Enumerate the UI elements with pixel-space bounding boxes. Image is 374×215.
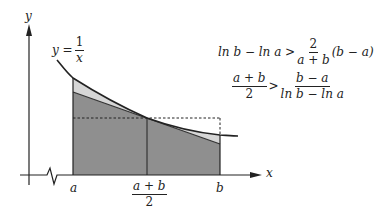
inequality-2-operator: > (269, 79, 279, 93)
x-axis-arrow-icon (250, 172, 262, 178)
midpoint-numerator: a + b (132, 180, 167, 195)
curve-label-denominator: x (76, 51, 83, 65)
curve-label-fraction: 1 x (75, 36, 85, 64)
tick-label-a: a (70, 182, 77, 194)
curve-label: y = 1 x (52, 36, 86, 64)
y-axis-label: y (25, 10, 32, 22)
inequality-2-left-numerator: a + b (232, 72, 267, 87)
inequality-1: ln b − ln a > 2 a + b (b − a) (218, 38, 374, 66)
y-axis-arrow-icon (26, 24, 32, 36)
inequality-1-denominator: a + b (297, 53, 330, 67)
inequality-2-right-numerator: b − a (295, 72, 330, 87)
tick-label-midpoint: a + b 2 (132, 180, 167, 208)
inequality-2-left-fraction: a + b 2 (232, 72, 267, 100)
inequality-1-numerator: 2 (309, 38, 319, 53)
curve-label-numerator: 1 (75, 36, 85, 51)
inequality-2-right-denominator: ln b − ln a (281, 87, 344, 101)
midpoint-denominator: 2 (145, 195, 153, 209)
tick-label-b: b (216, 182, 224, 194)
inequality-2: a + b 2 > b − a ln b − ln a (230, 72, 346, 100)
x-axis-label: x (266, 167, 273, 179)
inequality-2-right-fraction: b − a ln b − ln a (281, 72, 344, 100)
inequality-1-lhs: ln b − ln a > (218, 45, 295, 59)
inequality-1-fraction: 2 a + b (297, 38, 330, 66)
inequality-1-rhs: (b − a) (332, 45, 374, 59)
inequality-2-left-denominator: 2 (245, 87, 253, 101)
curve-label-lhs: y = (52, 43, 73, 57)
